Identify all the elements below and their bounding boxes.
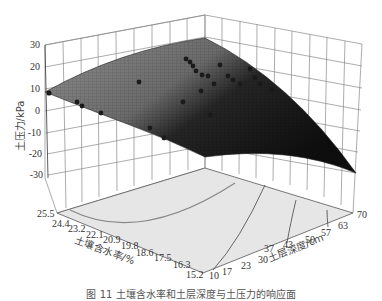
x-tick: 20.9	[103, 234, 121, 245]
z-tick: -30	[30, 169, 43, 180]
y-tick: 23	[241, 260, 251, 271]
z-tick: -20	[29, 148, 42, 159]
y-tick: 17	[222, 266, 232, 277]
x-tick: 24.4	[52, 218, 70, 229]
z-tick: 10	[30, 83, 40, 94]
x-tick: 18.6	[136, 247, 154, 258]
x-tick: 17.5	[154, 252, 172, 263]
y-tick: 70	[357, 209, 367, 220]
z-tick: 30	[30, 39, 40, 50]
z-axis-label: 土压力/kPa	[14, 101, 26, 152]
x-tick: 15.2	[186, 269, 204, 280]
z-tick: 0	[35, 105, 40, 116]
y-tick: 63	[338, 220, 348, 231]
z-tick: 20	[30, 61, 40, 72]
figure-caption: 图 11 土壤含水率和土层深度与土压力的响应面	[0, 286, 382, 301]
y-tick: 10	[209, 270, 219, 281]
z-axis: 30 20 10 0 -10 -20 -30 土压力/kPa	[14, 39, 48, 180]
z-tick: -10	[28, 127, 41, 138]
x-tick: 23.2	[68, 223, 86, 234]
